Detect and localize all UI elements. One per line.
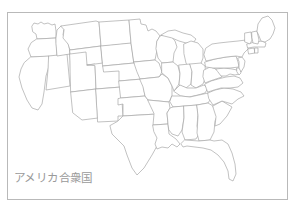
- map-caption-label: アメリカ合衆国: [14, 171, 93, 185]
- map-page: アメリカ合衆国: [0, 0, 296, 209]
